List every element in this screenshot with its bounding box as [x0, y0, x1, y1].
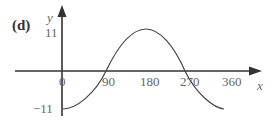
x-tick-90: 90: [102, 74, 115, 89]
x-tick-180: 180: [140, 74, 160, 89]
y-tick-neg11: −11: [33, 101, 53, 116]
x-tick-270: 270: [180, 74, 200, 89]
curve: [63, 29, 224, 109]
y-axis-label: y: [45, 10, 53, 25]
cosine-graph: y 11 −11 0 90 180 270 360 x: [0, 0, 276, 132]
x-tick-0: 0: [59, 74, 66, 89]
y-tick-11: 11: [45, 25, 58, 40]
x-axis-arrow-icon: [249, 67, 262, 76]
x-axis-label: x: [256, 78, 263, 93]
y-axis-arrow-icon: [58, 5, 67, 17]
x-tick-360: 360: [222, 74, 242, 89]
